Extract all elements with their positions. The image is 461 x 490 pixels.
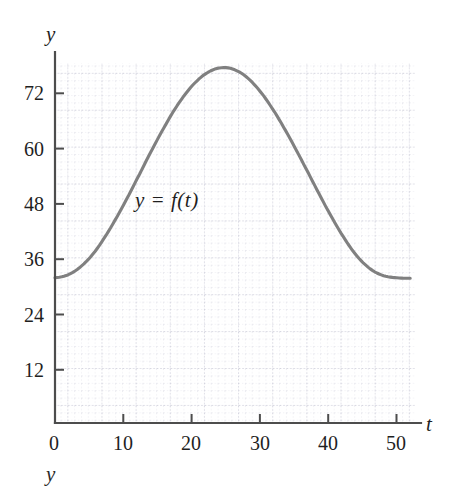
x-tick-label-0: 0 — [49, 433, 59, 453]
x-tick-label-20: 20 — [181, 433, 201, 453]
chart-canvas — [0, 0, 461, 490]
x-tick-label-10: 10 — [113, 433, 133, 453]
x-tick-label-30: 30 — [250, 433, 270, 453]
y-tick-label-60: 60 — [6, 139, 44, 159]
curve-annotation-label: y = f(t) — [135, 190, 199, 211]
y-tick-label-72: 72 — [6, 83, 44, 103]
x-tick-label-40: 40 — [318, 433, 338, 453]
grid-major — [55, 63, 415, 423]
y-tick-label-12: 12 — [6, 360, 44, 380]
y-tick-label-24: 24 — [6, 305, 44, 325]
x-axis-label: t — [426, 414, 432, 435]
y-tick-label-48: 48 — [6, 194, 44, 214]
x-tick-label-50: 50 — [386, 433, 406, 453]
y-tick-label-36: 36 — [6, 249, 44, 269]
chart-figure: y t 72 60 48 36 24 12 0 10 20 30 40 50 y… — [0, 0, 461, 490]
stray-y-glyph: y — [46, 464, 55, 485]
y-axis-label: y — [46, 24, 55, 45]
